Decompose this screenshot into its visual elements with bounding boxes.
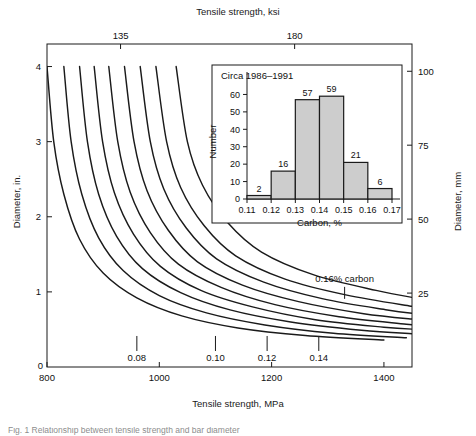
inset-x-tick-label: 0.12	[262, 205, 280, 215]
inset-bar	[295, 100, 319, 199]
curve-label-carbon: 0.16% carbon	[315, 273, 374, 284]
right-axis-ticks: 255075100	[407, 66, 434, 299]
inset-bar-label: 16	[278, 159, 288, 169]
main-plot: 135180 800100012001400 12340 255075100 0…	[0, 0, 476, 436]
curve-label-0.10: 0.10	[206, 352, 225, 363]
curve-label-0.14: 0.14	[310, 352, 329, 363]
x-tick-label: 800	[39, 372, 55, 383]
y-tick-label: 1	[36, 286, 41, 297]
inset-y-tick-label: 0	[235, 194, 240, 204]
figure-caption-strip: Fig. 1 Relationship between tensile stre…	[0, 427, 476, 436]
y-tick-label: 4	[36, 61, 41, 72]
inset-bar-label: 57	[302, 88, 312, 98]
ksi-tick-label: 135	[113, 30, 129, 41]
inset-x-tick-label: 0.17	[383, 205, 401, 215]
bottom-axis-ticks: 800100012001400	[39, 362, 394, 383]
inset-y-tick-label: 40	[230, 125, 240, 135]
inset-x-tick-label: 0.14	[311, 205, 329, 215]
inset-bar-label: 59	[327, 84, 337, 94]
inset-y-tick-label: 20	[230, 159, 240, 169]
inset-y-tick-label: 60	[230, 90, 240, 100]
inset-x-tick-label: 0.15	[335, 205, 353, 215]
curve-annotations: 0.080.100.120.140.16% carbon	[128, 273, 374, 363]
y-tick-label: 2	[36, 211, 41, 222]
right-axis-title: Diameter, mm	[452, 157, 463, 247]
y-origin-label: 0	[38, 360, 43, 371]
inset-bar	[344, 162, 368, 199]
mm-tick-label: 50	[418, 214, 429, 225]
mm-tick-label: 100	[418, 66, 434, 77]
mm-tick-label: 75	[418, 140, 429, 151]
inset-x-tick-label: 0.13	[287, 205, 305, 215]
inset-x-tick-label: 0.16	[359, 205, 377, 215]
inset-bar	[247, 196, 271, 199]
top-axis-title: Tensile strength, ksi	[0, 6, 476, 17]
inset-x-tick-label: 0.11	[239, 205, 256, 215]
ksi-tick-label: 180	[287, 30, 303, 41]
left-axis-title: Diameter, in.	[11, 162, 22, 242]
bottom-axis-title: Tensile strength, MPa	[0, 398, 476, 409]
y-tick-label: 3	[36, 136, 41, 147]
inset-bar	[271, 171, 295, 199]
inset-y-tick-label: 30	[230, 142, 240, 152]
inset-bar-label: 2	[257, 184, 262, 194]
inset-histogram: Circa 1986–19910102030405060Number0.110.…	[207, 65, 402, 228]
curve-label-0.12: 0.12	[258, 352, 277, 363]
inset-y-axis-title: Number	[207, 125, 218, 159]
inset-y-tick-label: 50	[230, 107, 240, 117]
top-axis-ticks: 135180	[113, 30, 303, 49]
inset-bar	[320, 96, 344, 199]
inset-y-tick-label: 10	[230, 177, 240, 187]
mm-tick-label: 25	[418, 288, 429, 299]
figure-caption: Fig. 1 Relationship between tensile stre…	[8, 427, 240, 435]
inset-bar-label: 21	[351, 150, 361, 160]
figure-container: Tensile strength, ksi Tensile strength, …	[0, 0, 476, 436]
inset-bar-label: 6	[377, 177, 382, 187]
x-tick-label: 1200	[261, 372, 282, 383]
inset-annotation: Circa 1986–1991	[221, 70, 293, 81]
inset-bar	[368, 189, 392, 199]
curve-label-0.08: 0.08	[128, 352, 147, 363]
left-axis-ticks: 12340	[36, 61, 52, 371]
inset-x-axis-title: Carbon, %	[297, 217, 342, 228]
x-tick-label: 1400	[373, 372, 394, 383]
x-tick-label: 1000	[149, 372, 170, 383]
